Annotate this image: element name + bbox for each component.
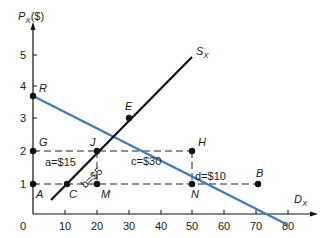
demand-label: DX [294,193,308,208]
x-axis-arrow-icon [310,212,318,217]
points [30,93,261,187]
y-tick-4: 4 [20,80,26,92]
x-tick-60: 60 [218,220,230,232]
supply-demand-chart: 1 2 3 4 5 0 10 20 30 40 50 60 70 80 PX($… [0,0,336,238]
label-N: N [191,188,199,200]
label-H: H [198,136,206,148]
label-G: G [39,136,48,148]
point-B [255,181,261,187]
supply-label: SX [196,45,209,60]
x-tick-20: 20 [91,220,103,232]
label-M: M [101,188,111,200]
y-tick-5: 5 [20,49,26,61]
label-A: A [35,188,43,200]
point-A [30,181,36,187]
x-tick-30: 30 [123,220,135,232]
y-axis-label: PX($) [18,10,44,25]
y-tick-1: 1 [20,178,26,190]
area-a-label: a=$15 [45,156,76,168]
y-tick-3: 3 [20,112,26,124]
label-E: E [125,100,133,112]
point-G [30,148,36,154]
point-J [94,148,100,154]
label-B: B [256,167,263,179]
label-R: R [39,82,47,94]
area-c-label: c=$30 [131,155,161,167]
x-tick-70: 70 [250,220,262,232]
x-tick-50: 50 [186,220,198,232]
point-R [30,93,36,99]
point-H [189,148,195,154]
y-axis-arrow-icon [31,22,36,30]
point-C [64,181,70,187]
y-tick-2: 2 [20,145,26,157]
x-tick-10: 10 [59,220,71,232]
supply-curve [51,57,192,200]
label-J: J [89,136,96,148]
point-E [126,115,132,121]
x-tick-0: 0 [20,220,26,232]
x-tick-40: 40 [155,220,167,232]
area-d-label: d=$10 [195,170,226,182]
label-C: C [69,188,77,200]
